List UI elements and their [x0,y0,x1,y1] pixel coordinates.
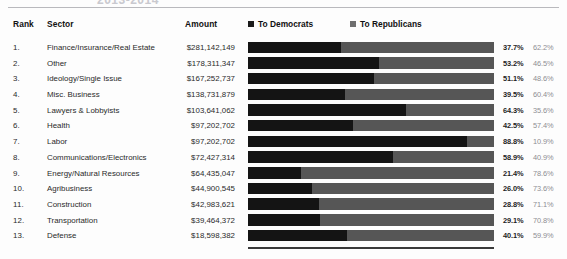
percent-democrats: 28.8% [503,200,523,209]
cell-amount: $138,731,879 [140,90,235,99]
stacked-bar [248,214,494,226]
percent-democrats: 39.5% [503,90,523,99]
percentage-labels: 51.1%48.6% [503,74,565,86]
cell-amount: $167,252,737 [140,74,235,83]
percentage-labels: 26.0%73.6% [503,184,565,196]
header-divider [8,7,559,8]
cell-amount: $72,427,314 [140,153,235,162]
stacked-bar [248,183,494,195]
table-row: 1.Finance/Insurance/Real Estate$281,142,… [0,40,567,56]
percentage-labels: 53.2%46.5% [503,59,565,71]
chart-legend: To Democrats To Republicans [248,19,548,31]
column-header-amount: Amount [185,19,217,29]
bar-segment-democrats [248,167,301,179]
percentage-labels: 42.5%57.4% [503,121,565,133]
table-body: 1.Finance/Insurance/Real Estate$281,142,… [0,40,567,244]
cell-amount: $97,202,702 [140,121,235,130]
percentage-labels: 40.1%59.9% [503,231,565,243]
percent-democrats: 58.9% [503,153,523,162]
page-title: 2013-2014 [97,0,159,6]
bar-segment-republicans [312,183,494,195]
table-row: 2.Other$178,311,34753.2%46.5% [0,56,567,72]
percentage-labels: 37.7%62.2% [503,43,565,55]
bar-segment-democrats [248,214,320,226]
cell-rank: 10. [13,184,37,193]
bar-segment-republicans [347,230,494,242]
stacked-bar [248,167,494,179]
table-row: 8.Communications/Electronics$72,427,3145… [0,150,567,166]
cell-rank: 9. [13,169,37,178]
percent-republicans: 10.9% [533,137,553,146]
cell-rank: 11. [13,200,37,209]
percent-republicans: 46.5% [533,59,553,68]
cell-sector: Health [47,121,70,130]
cell-rank: 13. [13,231,37,240]
percent-republicans: 62.2% [533,43,553,52]
cell-amount: $44,900,545 [140,184,235,193]
percent-democrats: 64.3% [503,106,523,115]
bar-segment-democrats [248,230,347,242]
bar-segment-republicans [345,89,494,101]
bar-segment-democrats [248,57,379,69]
cell-sector: Misc. Business [47,90,100,99]
bar-segment-republicans [379,57,494,69]
bar-segment-democrats [248,42,341,54]
bar-segment-republicans [374,73,494,85]
percent-democrats: 42.5% [503,121,523,130]
percent-democrats: 37.7% [503,43,523,52]
bar-segment-republicans [406,104,494,116]
percent-democrats: 51.1% [503,74,523,83]
table-row: 3.Ideology/Single Issue$167,252,73751.1%… [0,71,567,87]
cell-rank: 5. [13,106,37,115]
bar-segment-democrats [248,151,393,163]
percent-republicans: 60.4% [533,90,553,99]
stacked-bar [248,42,494,54]
cell-sector: Lawyers & Lobbyists [47,106,119,115]
cell-sector: Labor [47,137,67,146]
percent-republicans: 70.8% [533,216,553,225]
bar-segment-democrats [248,120,353,132]
percent-democrats: 53.2% [503,59,523,68]
table-row: 13.Defense$18,598,38240.1%59.9% [0,228,567,244]
stacked-bar [248,120,494,132]
bar-segment-republicans [301,167,494,179]
column-header-sector: Sector [47,19,74,29]
legend-label-republicans: To Republicans [360,19,422,29]
percent-democrats: 21.4% [503,169,523,178]
percent-republicans: 59.9% [533,231,553,240]
cell-sector: Defense [47,231,76,240]
cell-amount: $178,311,347 [140,59,235,68]
chart-baseline-rule [248,247,494,249]
percentage-labels: 21.4%78.6% [503,169,565,181]
percent-democrats: 26.0% [503,184,523,193]
bar-segment-democrats [248,136,467,148]
cell-amount: $64,435,047 [140,169,235,178]
table-row: 4.Misc. Business$138,731,87939.5%60.4% [0,87,567,103]
percent-democrats: 88.8% [503,137,523,146]
bar-segment-democrats [248,89,345,101]
cell-rank: 7. [13,137,37,146]
percent-republicans: 78.6% [533,169,553,178]
percent-republicans: 48.6% [533,74,553,83]
stacked-bar [248,230,494,242]
cell-sector: Construction [47,200,91,209]
percent-republicans: 73.6% [533,184,553,193]
cell-rank: 8. [13,153,37,162]
stacked-bar [248,57,494,69]
cell-amount: $103,641,062 [140,106,235,115]
cell-sector: Energy/Natural Resources [47,169,140,178]
stacked-bar [248,151,494,163]
percentage-labels: 29.1%70.8% [503,216,565,228]
percent-republicans: 57.4% [533,121,553,130]
legend-swatch-democrats-icon [248,21,254,27]
cell-sector: Transportation [47,216,98,225]
cell-sector: Other [47,59,67,68]
cell-amount: $39,464,372 [140,216,235,225]
sector-contributions-chart: 2013-2014 Rank Sector Amount To Democrat… [0,0,567,259]
legend-swatch-republicans-icon [350,21,356,27]
legend-item-democrats: To Democrats [248,19,313,29]
bar-segment-democrats [248,73,374,85]
cell-amount: $281,142,149 [140,43,235,52]
bar-segment-republicans [341,42,494,54]
bar-segment-democrats [248,104,406,116]
